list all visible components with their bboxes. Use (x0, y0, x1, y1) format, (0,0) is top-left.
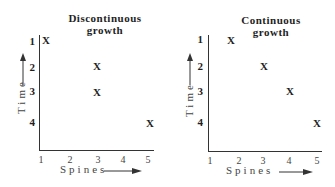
data-point: X (226, 34, 236, 46)
x-tick-1: 1 (205, 155, 215, 166)
x-axis-label: Spines (226, 164, 273, 176)
y-tick-1: 1 (25, 35, 35, 47)
data-point: X (92, 60, 102, 72)
data-point: X (145, 117, 155, 129)
y-axis (39, 35, 40, 151)
data-point: X (92, 86, 102, 98)
x-axis (39, 150, 154, 151)
y-tick-1: 1 (193, 33, 203, 45)
x-tick-1: 1 (36, 154, 46, 165)
x-tick-4: 4 (284, 155, 294, 166)
chart-title: Continuous growth (226, 14, 316, 38)
data-point: X (312, 117, 322, 129)
y-tick-4: 4 (25, 116, 35, 128)
x-tick-5: 5 (312, 155, 322, 166)
x-tick-4: 4 (118, 154, 128, 165)
chart-continuous-growth: Continuous growth 1 2 3 4 1 2 3 4 5 X X … (168, 0, 335, 187)
data-point: X (41, 34, 51, 46)
x-tick-5: 5 (143, 154, 153, 165)
x-axis-label: Spines (60, 163, 107, 175)
y-axis-arrow-icon (187, 53, 195, 85)
title-line-1: Discontinuous (55, 12, 155, 24)
title-line-1: Continuous (226, 14, 316, 26)
y-axis-arrow-icon (20, 53, 28, 85)
chart-discontinuous-growth: Discontinuous growth 1 2 3 4 1 2 3 4 5 X… (0, 0, 168, 187)
y-axis-label: Time (183, 82, 195, 117)
data-point: X (259, 60, 269, 72)
title-line-2: growth (55, 24, 155, 36)
y-tick-4: 4 (193, 116, 203, 128)
y-axis (208, 35, 209, 151)
data-point: X (285, 85, 295, 97)
chart-title: Discontinuous growth (55, 12, 155, 36)
x-axis-arrow-icon (104, 167, 144, 175)
x-axis-arrow-icon (279, 168, 315, 176)
title-line-2: growth (226, 26, 316, 38)
x-axis (208, 151, 322, 152)
